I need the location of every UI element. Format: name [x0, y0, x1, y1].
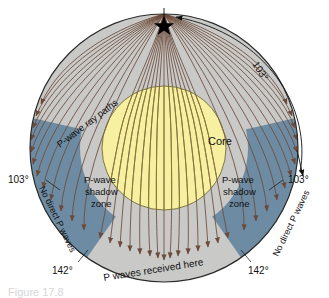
shadow-zone-left-line2: shadow — [85, 186, 118, 197]
shadow-zone-right-line2: shadow — [223, 186, 256, 197]
angle-label-103-left: 103° — [8, 174, 29, 185]
figure-caption-fragment: Figure 17.8 — [8, 286, 64, 298]
angle-label-142-left: 142° — [52, 265, 73, 276]
shadow-zone-right-line3: zone — [229, 198, 250, 209]
earth-cross-section-diagram: Core P-wave ray paths P-wave ray paths P… — [0, 0, 329, 298]
angle-label-142-right: 142° — [248, 265, 269, 276]
shadow-zone-left-line1: P-wave — [84, 174, 116, 185]
shadow-zone-left-line3: zone — [91, 198, 112, 209]
figure-root: Core P-wave ray paths P-wave ray paths P… — [0, 0, 329, 298]
core-label: Core — [208, 135, 232, 147]
angle-label-103-right: 103° — [288, 174, 309, 185]
shadow-zone-right-line1: P-wave — [222, 174, 254, 185]
